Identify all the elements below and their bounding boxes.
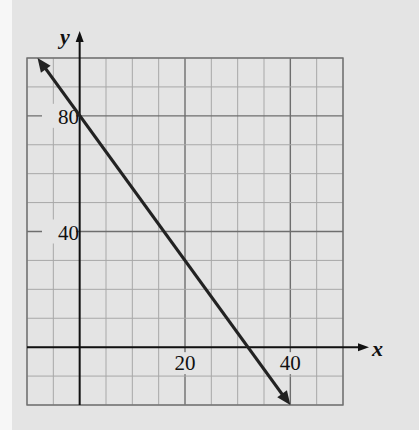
x-axis-arrow-icon — [358, 343, 369, 351]
y-tick-label: 40 — [58, 221, 79, 245]
line-chart: yx20404080 — [0, 0, 419, 430]
x-axis-label: x — [371, 336, 383, 361]
x-tick-label: 20 — [175, 351, 196, 375]
y-axis-label: y — [57, 24, 70, 49]
y-axis-arrow-icon — [76, 31, 84, 42]
x-tick-label: 40 — [280, 351, 301, 375]
